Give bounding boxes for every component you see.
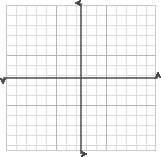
- graph-canvas: [0, 0, 161, 157]
- coordinate-grid-figure: [0, 0, 161, 157]
